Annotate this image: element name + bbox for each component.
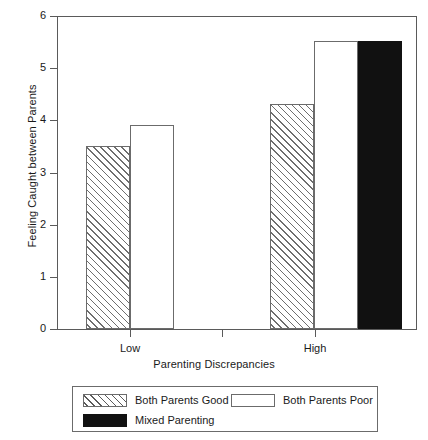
axis-line-right bbox=[416, 16, 417, 330]
x-tick-mark-middle bbox=[222, 330, 223, 337]
bar-chart-figure: Feeling Caught between Parents 0 1 2 3 4… bbox=[0, 0, 428, 440]
y-tick-mark-5 bbox=[50, 68, 57, 69]
bar-high-both-parents-good bbox=[270, 104, 314, 329]
axis-line-left bbox=[57, 16, 58, 330]
plot-area: 0 1 2 3 4 5 6 Low High bbox=[57, 16, 417, 330]
y-tick-mark-6 bbox=[50, 16, 57, 17]
x-axis-label: Parenting Discrepancies bbox=[0, 358, 428, 370]
axis-line-bottom bbox=[57, 329, 417, 330]
legend-entry-both-parents-good: Both Parents Good bbox=[83, 394, 229, 407]
legend-swatch-hatch-icon bbox=[83, 394, 127, 407]
y-tick-mark-0 bbox=[50, 329, 57, 330]
bar-low-both-parents-poor bbox=[130, 125, 174, 329]
legend-label-mixed-parenting: Mixed Parenting bbox=[135, 414, 215, 426]
y-tick-mark-3 bbox=[50, 173, 57, 174]
bar-high-both-parents-poor bbox=[314, 41, 358, 329]
bar-low-both-parents-good bbox=[86, 146, 130, 329]
y-tick-mark-1 bbox=[50, 277, 57, 278]
legend-entry-both-parents-poor: Both Parents Poor bbox=[231, 394, 373, 407]
legend-label-both-parents-poor: Both Parents Poor bbox=[283, 394, 373, 406]
y-tick-label-4: 4 bbox=[26, 114, 46, 125]
x-tick-label-low: Low bbox=[90, 342, 170, 354]
x-tick-mark-high bbox=[315, 330, 316, 337]
legend-swatch-white-icon bbox=[231, 394, 275, 407]
bar-high-mixed-parenting bbox=[358, 41, 402, 329]
legend-label-both-parents-good: Both Parents Good bbox=[135, 394, 229, 406]
y-tick-label-3: 3 bbox=[26, 167, 46, 178]
x-tick-mark-low bbox=[130, 330, 131, 337]
y-tick-label-0: 0 bbox=[26, 323, 46, 334]
x-tick-label-high: High bbox=[275, 342, 355, 354]
y-tick-label-6: 6 bbox=[26, 10, 46, 21]
y-tick-mark-4 bbox=[50, 120, 57, 121]
y-tick-label-1: 1 bbox=[26, 271, 46, 282]
legend-entry-mixed-parenting: Mixed Parenting bbox=[83, 414, 215, 427]
legend-row-second: Mixed Parenting bbox=[73, 410, 379, 430]
legend-row-first: Both Parents Good Both Parents Poor bbox=[73, 390, 379, 410]
axis-line-top bbox=[57, 16, 417, 17]
legend-swatch-black-icon bbox=[83, 414, 127, 427]
chart-legend: Both Parents Good Both Parents Poor Mixe… bbox=[72, 386, 378, 432]
y-tick-mark-2 bbox=[50, 225, 57, 226]
y-tick-label-2: 2 bbox=[26, 219, 46, 230]
y-tick-label-5: 5 bbox=[26, 62, 46, 73]
